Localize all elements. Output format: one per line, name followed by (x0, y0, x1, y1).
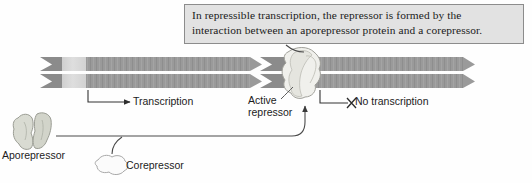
label-active-repressor-line-1: Active (248, 95, 292, 107)
corepressor-molecule (95, 155, 128, 174)
caption-line-1: In repressible transcription, the repres… (192, 8, 520, 23)
label-transcription: Transcription (133, 96, 193, 108)
repressible-transcription-figure: In repressible transcription, the repres… (0, 0, 532, 183)
caption-text: In repressible transcription, the repres… (192, 8, 520, 38)
label-active-repressor: Active repressor (248, 95, 292, 118)
label-corepressor: Corepressor (126, 160, 184, 172)
active-repressor-molecule (282, 48, 320, 99)
caption-line-2: interaction between an aporepressor prot… (192, 23, 520, 38)
transcription-pointer (88, 90, 130, 102)
dna-left-bottom-strand (40, 74, 262, 88)
no-transcription-pointer (320, 90, 356, 108)
dna-left-top-strand (40, 57, 262, 71)
aporepressor-molecule (13, 113, 51, 150)
label-no-transcription: No transcription (355, 96, 429, 108)
label-aporepressor: Aporepressor (2, 150, 65, 162)
label-active-repressor-line-2: repressor (248, 107, 292, 119)
